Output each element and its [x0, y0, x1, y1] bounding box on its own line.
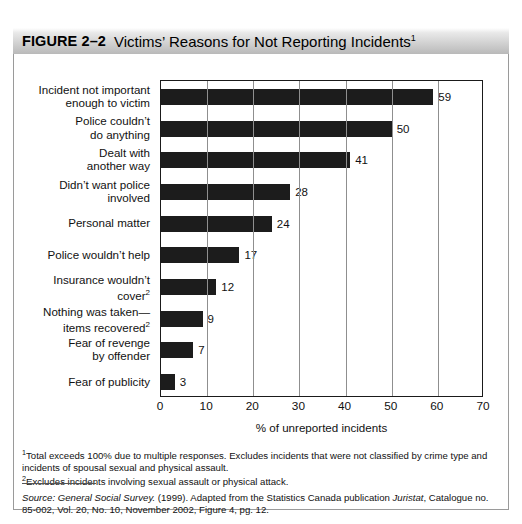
- category-label: Insurance wouldn’t cover2: [0, 273, 150, 302]
- bar: [161, 121, 392, 137]
- category-label: Didn’t want police involved: [0, 178, 150, 204]
- gridline: [438, 81, 439, 396]
- bar-row: 59: [161, 89, 484, 105]
- bar-row: 28: [161, 184, 484, 200]
- bar-row: 7: [161, 342, 484, 358]
- x-tick-label: 20: [246, 399, 259, 413]
- figure-title-text: Victims’ Reasons for Not Reporting Incid…: [114, 33, 411, 50]
- category-axis-labels: Incident not important enough to victimP…: [0, 80, 155, 397]
- bar-value-label: 59: [433, 91, 451, 103]
- x-tick-label: 10: [200, 399, 213, 413]
- bar-value-label: 17: [239, 249, 257, 261]
- source-mid: (1999). Adapted from the Statistics Cana…: [158, 492, 390, 503]
- gridline: [253, 81, 254, 396]
- footnote-1-text: Total exceeds 100% due to multiple respo…: [22, 450, 487, 473]
- bar: [161, 152, 350, 168]
- bar-value-label: 9: [203, 313, 214, 325]
- category-label: Police wouldn’t help: [0, 248, 150, 261]
- category-label: Fear of revenge by offender: [0, 336, 150, 362]
- bar: [161, 374, 175, 390]
- source-divider: [22, 483, 96, 484]
- source-prefix: Source:: [22, 492, 55, 503]
- bar: [161, 311, 203, 327]
- bar-chart: Incident not important enough to victimP…: [0, 55, 522, 405]
- bar: [161, 247, 239, 263]
- bar-value-label: 3: [175, 376, 186, 388]
- source-note: Source: General Social Survey. (1999). A…: [22, 492, 500, 515]
- bar-row: 50: [161, 121, 484, 137]
- category-footnote-marker: 2: [146, 320, 150, 329]
- x-tick-label: 60: [430, 399, 443, 413]
- bar-row: 17: [161, 247, 484, 263]
- footnote-1: 1Total exceeds 100% due to multiple resp…: [22, 447, 500, 473]
- x-axis-title: % of unreported incidents: [160, 421, 483, 434]
- bar: [161, 184, 290, 200]
- bar: [161, 216, 272, 232]
- x-tick-label: 70: [476, 399, 489, 413]
- bar: [161, 342, 193, 358]
- bar-value-label: 7: [193, 344, 204, 356]
- x-tick-label: 40: [338, 399, 351, 413]
- footnote-2: 2Excludes incidents involving sexual ass…: [22, 473, 500, 488]
- source-publication: General Social Survey.: [58, 492, 155, 503]
- footnotes: 1Total exceeds 100% due to multiple resp…: [22, 447, 500, 488]
- category-label: Dealt with another way: [0, 146, 150, 172]
- bar-value-label: 24: [272, 218, 290, 230]
- x-tick-label: 30: [292, 399, 305, 413]
- bar-row: 12: [161, 279, 484, 295]
- bar-rows: 59504128241712973: [161, 81, 482, 396]
- category-label: Nothing was taken— items recovered2: [0, 305, 150, 334]
- gridline: [346, 81, 347, 396]
- category-label: Fear of publicity: [0, 375, 150, 388]
- figure-title: Victims’ Reasons for Not Reporting Incid…: [114, 33, 416, 50]
- bar-value-label: 50: [392, 123, 410, 135]
- x-axis-ticks: 010203040506070: [160, 399, 483, 417]
- bar-row: 9: [161, 311, 484, 327]
- figure-page: FIGURE 2–2 Victims’ Reasons for Not Repo…: [0, 0, 522, 524]
- x-tick-label: 50: [384, 399, 397, 413]
- gridline: [207, 81, 208, 396]
- bar-row: 24: [161, 216, 484, 232]
- gridline: [299, 81, 300, 396]
- category-label: Police couldn’t do anything: [0, 114, 150, 140]
- category-label: Personal matter: [0, 216, 150, 229]
- gridline: [392, 81, 393, 396]
- figure-number: FIGURE 2–2: [22, 33, 106, 49]
- source-juristat: Juristat: [393, 492, 424, 503]
- bar-value-label: 12: [216, 281, 234, 293]
- category-footnote-marker: 2: [146, 288, 150, 297]
- figure-title-footnote-marker: 1: [411, 33, 416, 43]
- category-label: Incident not important enough to victim: [0, 83, 150, 109]
- bar-value-label: 41: [350, 154, 368, 166]
- plot-area: 59504128241712973: [160, 80, 483, 397]
- bar-row: 3: [161, 374, 484, 390]
- bar-row: 41: [161, 152, 484, 168]
- figure-title-bar: FIGURE 2–2 Victims’ Reasons for Not Repo…: [13, 28, 509, 54]
- x-tick-label: 0: [157, 399, 164, 413]
